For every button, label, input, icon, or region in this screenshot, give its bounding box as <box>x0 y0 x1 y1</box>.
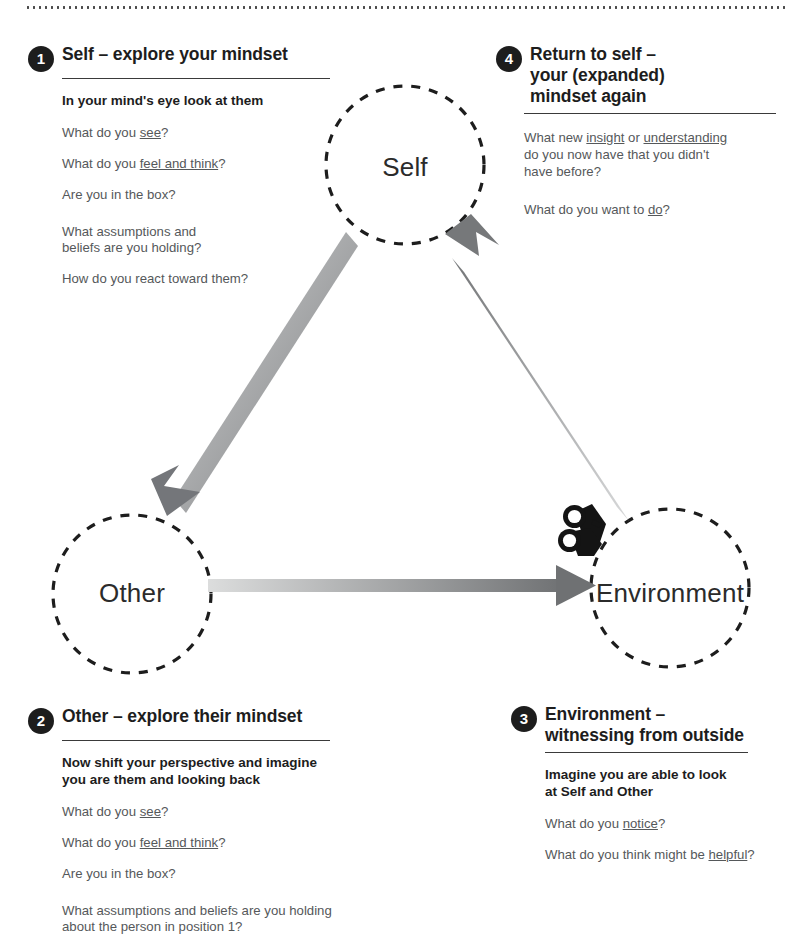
panel-question: What do you feel and think? <box>62 156 348 172</box>
panel-body: In your mind's eye look at them What do … <box>28 79 348 287</box>
panel-question: What assumptions and beliefs are you hol… <box>62 903 428 935</box>
panel-title: Other – explore their mindset <box>28 706 428 727</box>
panel-header: 3 Environment – witnessing from outside <box>511 704 791 746</box>
panel-return-to-self: 4 Return to self – your (expanded) minds… <box>496 44 786 218</box>
panel-question: What assumptions and beliefs are you hol… <box>62 224 348 256</box>
panel-question: How do you react toward them? <box>62 271 348 287</box>
panel-other: 2 Other – explore their mindset Now shif… <box>28 706 428 935</box>
arrow-other-to-environment <box>208 565 596 606</box>
panel-question: What do you want to do? <box>524 201 786 218</box>
panel-question: What do you notice? <box>545 816 791 832</box>
panel-question: What new insight or understanding do you… <box>524 129 786 180</box>
panel-question: What do you think might be helpful? <box>545 847 791 863</box>
worksheet-page: Self Other Environment 1 Self – explore … <box>0 0 795 936</box>
panel-title: Return to self – your (expanded) mindset… <box>496 44 786 107</box>
panel-body: Now shift your perspective and imagine y… <box>28 741 428 935</box>
panel-header: 4 Return to self – your (expanded) minds… <box>496 44 786 107</box>
panel-header: 1 Self – explore your mindset <box>28 44 348 72</box>
binoculars-icon <box>558 504 606 556</box>
panel-body: What new insight or understanding do you… <box>496 114 786 218</box>
node-label-environment: Environment <box>586 578 754 609</box>
panel-question: Are you in the box? <box>62 187 348 203</box>
panel-question: What do you feel and think? <box>62 835 428 851</box>
step-badge-2: 2 <box>28 708 54 734</box>
panel-body: Imagine you are able to look at Self and… <box>511 753 791 863</box>
node-label-other: Other <box>53 578 211 609</box>
arrow-environment-to-self <box>445 214 629 521</box>
step-badge-3: 3 <box>511 706 537 732</box>
panel-lede: In your mind's eye look at them <box>62 92 348 109</box>
step-badge-1: 1 <box>28 46 54 72</box>
panel-question: What do you see? <box>62 125 348 141</box>
node-label-self: Self <box>325 152 485 183</box>
panel-title: Self – explore your mindset <box>28 44 348 65</box>
panel-question: Are you in the box? <box>62 866 428 882</box>
panel-self: 1 Self – explore your mindset In your mi… <box>28 44 348 287</box>
panel-question: What do you see? <box>62 804 428 820</box>
panel-environment: 3 Environment – witnessing from outside … <box>511 704 791 863</box>
panel-lede: Imagine you are able to look at Self and… <box>545 766 791 800</box>
panel-header: 2 Other – explore their mindset <box>28 706 428 734</box>
panel-title: Environment – witnessing from outside <box>511 704 791 746</box>
step-badge-4: 4 <box>496 46 522 72</box>
panel-lede: Now shift your perspective and imagine y… <box>62 754 428 788</box>
